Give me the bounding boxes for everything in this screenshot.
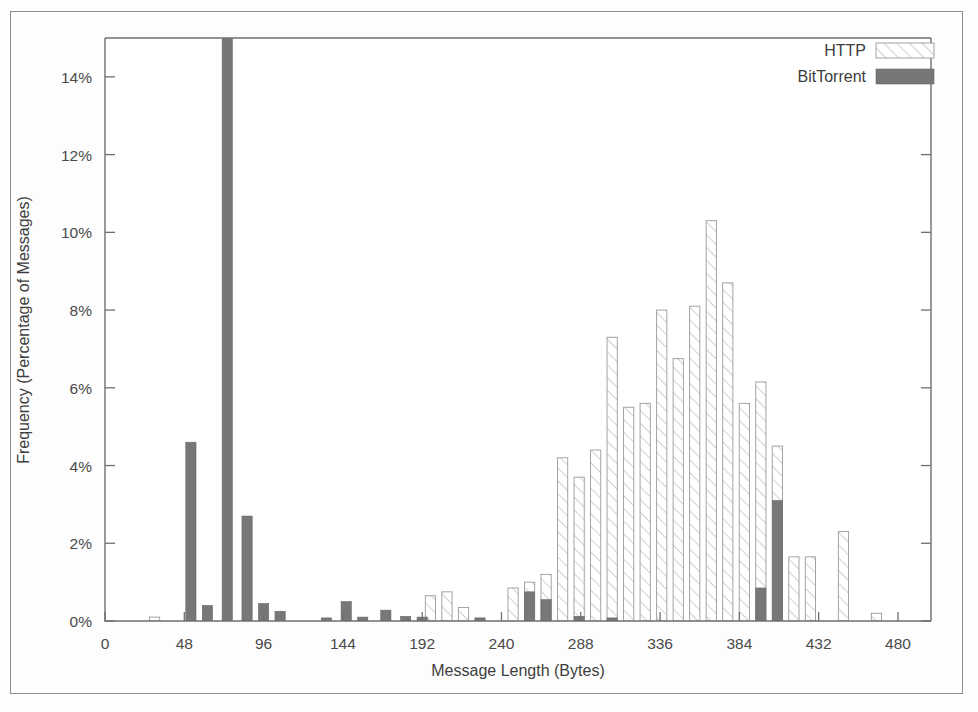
bar-http: [442, 592, 452, 621]
bar-http: [640, 403, 650, 621]
x-tick-label: 288: [568, 635, 594, 652]
bar-http: [871, 613, 881, 621]
bar-http: [706, 221, 716, 621]
bar-bittorrent: [202, 605, 212, 621]
y-tick-label: 8%: [70, 302, 93, 319]
bar-http: [723, 283, 733, 621]
bar-http: [624, 407, 634, 621]
bar-http: [591, 450, 601, 621]
bar-bittorrent: [222, 38, 232, 621]
x-tick-label: 240: [489, 635, 515, 652]
bar-http: [739, 403, 749, 621]
x-tick-label: 384: [726, 635, 752, 652]
x-tick-label: 192: [409, 635, 435, 652]
x-tick-label: 96: [255, 635, 272, 652]
y-tick-label: 2%: [70, 535, 93, 552]
legend-swatch-bittorrent: [876, 69, 934, 84]
legend-swatch-http: [876, 43, 934, 58]
bar-bittorrent: [524, 592, 534, 621]
bar-http: [789, 557, 799, 621]
bar-bittorrent: [186, 442, 196, 621]
bar-bittorrent: [772, 501, 782, 621]
y-tick-label: 6%: [70, 380, 93, 397]
x-tick-label: 336: [647, 635, 673, 652]
histogram-chart: 04896144192240288336384432480 0%2%4%6%8%…: [0, 0, 978, 712]
bar-bittorrent: [275, 611, 285, 621]
x-tick-label: 48: [176, 635, 193, 652]
x-axis-title: Message Length (Bytes): [431, 662, 604, 679]
y-axis-title: Frequency (Percentage of Messages): [15, 196, 32, 464]
y-tick-label: 0%: [70, 613, 93, 630]
chart-figure: 04896144192240288336384432480 0%2%4%6%8%…: [0, 0, 978, 712]
screenshot-page: 04896144192240288336384432480 0%2%4%6%8%…: [0, 0, 978, 712]
bar-http: [574, 477, 584, 621]
bar-http: [657, 310, 667, 621]
bar-bittorrent: [756, 588, 766, 621]
bar-http: [607, 337, 617, 621]
bar-http: [458, 607, 468, 621]
bar-http: [838, 532, 848, 621]
x-tick-label: 480: [885, 635, 911, 652]
y-tick-label: 14%: [61, 69, 92, 86]
bar-bittorrent: [541, 600, 551, 621]
bar-bittorrent: [242, 516, 252, 621]
bar-http: [756, 382, 766, 621]
bar-bittorrent: [381, 610, 391, 621]
bar-http: [805, 557, 815, 621]
bar-http: [673, 359, 683, 621]
y-tick-label: 12%: [61, 147, 92, 164]
legend-label-http: HTTP: [824, 42, 866, 59]
y-tick-label: 4%: [70, 458, 93, 475]
bar-http: [557, 458, 567, 621]
y-tick-label: 10%: [61, 224, 92, 241]
x-tick-label: 432: [806, 635, 832, 652]
bar-http: [508, 588, 518, 621]
legend-label-bittorrent: BitTorrent: [798, 68, 867, 85]
x-tick-label: 0: [101, 635, 110, 652]
bar-http: [690, 306, 700, 621]
x-tick-label: 144: [330, 635, 356, 652]
